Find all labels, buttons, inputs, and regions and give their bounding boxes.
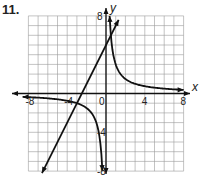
line-series — [42, 20, 119, 173]
y-tick-label: -8 — [97, 166, 106, 177]
x-tick-label: -8 — [25, 96, 34, 107]
x-tick-label: 4 — [142, 96, 148, 107]
y-axis-label: y — [109, 1, 117, 15]
x-tick-label: 8 — [181, 96, 187, 107]
y-tick-label: -4 — [97, 127, 106, 138]
curves — [23, 16, 184, 173]
graph: -8-40488-4-8xy — [0, 0, 204, 177]
hyperbola-branch-1 — [110, 16, 184, 90]
x-tick-label: -4 — [64, 96, 73, 107]
x-axis-label: x — [191, 80, 199, 94]
x-tick-label: 0 — [99, 96, 105, 107]
y-tick-label: 8 — [97, 11, 103, 22]
